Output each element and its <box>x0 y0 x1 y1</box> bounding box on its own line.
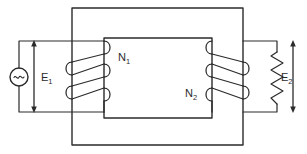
secondary-turns-label: N2 <box>185 87 197 102</box>
primary-circuit-wiring <box>19 41 104 112</box>
primary-turns-label: N1 <box>118 51 130 66</box>
secondary-voltage-label: E2 <box>281 71 293 86</box>
ac-source-symbol <box>10 68 28 86</box>
secondary-circuit-wiring <box>243 41 277 112</box>
core-inner-rectangle <box>104 38 212 118</box>
core-outer-rectangle <box>72 8 243 145</box>
schematic-canvas: E1 N1 <box>0 0 307 154</box>
transformer-diagram: E1 N1 <box>0 0 307 154</box>
primary-voltage-label: E1 <box>41 71 53 86</box>
primary-voltage-arrow <box>31 40 37 113</box>
